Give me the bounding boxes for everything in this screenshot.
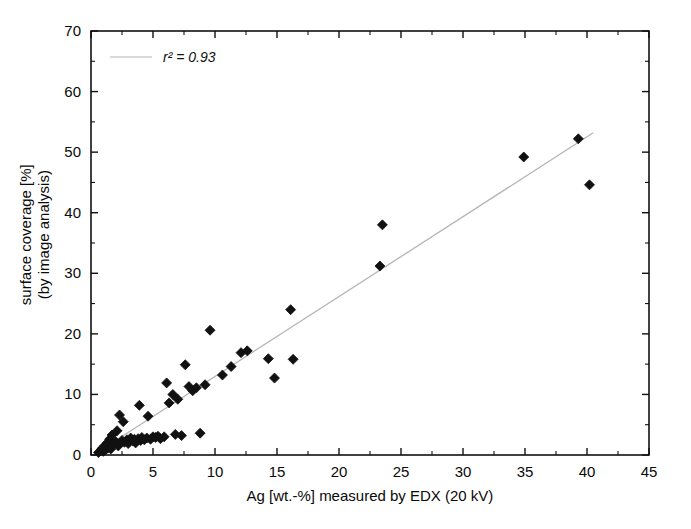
x-axis-label: Ag [wt.-%] measured by EDX (20 kV) bbox=[90, 487, 650, 504]
x-tick-label: 30 bbox=[455, 463, 472, 480]
x-tick-label: 20 bbox=[331, 463, 348, 480]
x-tick-label: 0 bbox=[87, 463, 95, 480]
y-tick-label: 70 bbox=[64, 22, 81, 39]
legend-label-r-squared: r² = 0.93 bbox=[163, 49, 216, 65]
x-tick-label: 10 bbox=[207, 463, 224, 480]
y-tick-label: 60 bbox=[64, 83, 81, 100]
y-tick-label: 10 bbox=[64, 385, 81, 402]
y-tick-label: 20 bbox=[64, 325, 81, 342]
x-tick-label: 25 bbox=[393, 463, 410, 480]
x-tick-label: 15 bbox=[269, 463, 286, 480]
scatter-plot-figure: 051015202530354045010203040506070 r² = 0… bbox=[0, 0, 691, 529]
x-tick-label: 5 bbox=[149, 463, 157, 480]
x-tick-label: 45 bbox=[641, 463, 658, 480]
y-tick-label: 0 bbox=[73, 446, 81, 463]
y-tick-label: 40 bbox=[64, 204, 81, 221]
y-tick-label: 50 bbox=[64, 143, 81, 160]
x-tick-label: 40 bbox=[579, 463, 596, 480]
y-tick-label: 30 bbox=[64, 264, 81, 281]
x-tick-label: 35 bbox=[517, 463, 534, 480]
